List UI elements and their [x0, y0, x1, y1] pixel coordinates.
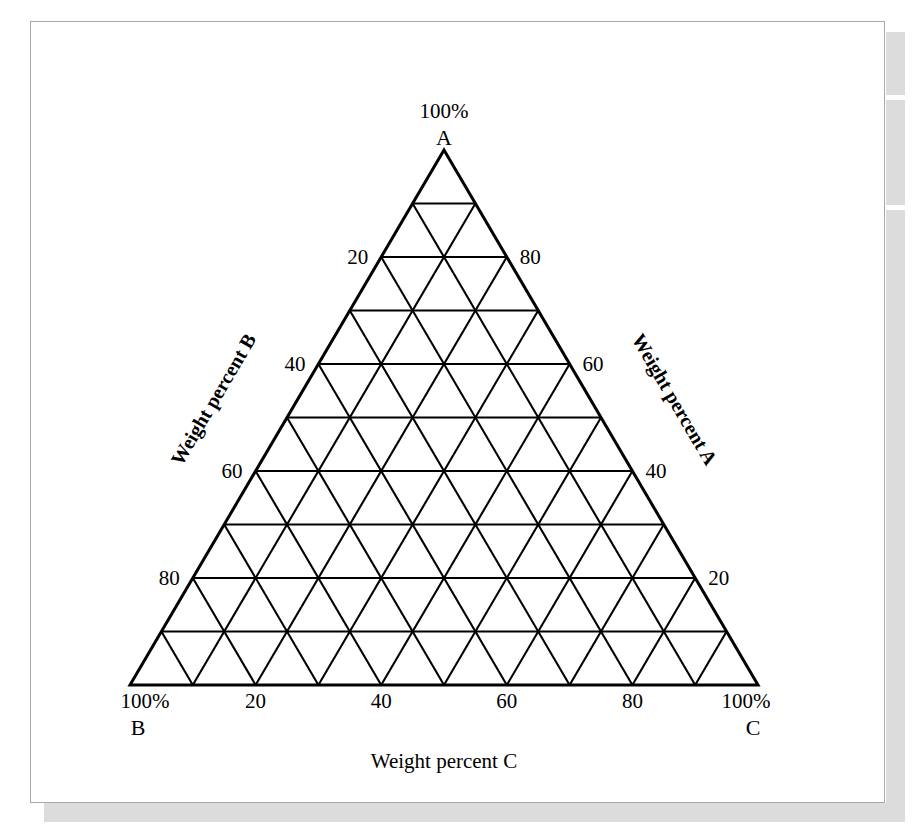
grid-line — [161, 632, 192, 686]
bottom-right-component-label: C — [746, 715, 761, 740]
axis-tick-label: 80 — [622, 689, 643, 713]
grid-line — [193, 204, 476, 686]
grid-line — [413, 204, 696, 686]
axis-tick-label: 20 — [347, 245, 368, 269]
right-axis-title: Weight percent A — [627, 330, 722, 470]
grid-line — [570, 525, 664, 686]
grid-line — [350, 311, 570, 686]
axis-tick-label: 80 — [159, 566, 180, 590]
axis-tick-label: 20 — [245, 689, 266, 713]
grid-line — [224, 525, 318, 686]
axis-tick-label: 60 — [583, 352, 604, 376]
axis-tick-label: 60 — [222, 459, 243, 483]
axis-tick-label: 80 — [520, 245, 541, 269]
grid-lines-parallel-to-base — [161, 204, 726, 632]
bottom-left-component-label: B — [131, 715, 146, 740]
apex-component-label: A — [436, 125, 452, 150]
grid-line — [318, 311, 538, 686]
axis-tick-label: 40 — [645, 459, 666, 483]
grid-line — [695, 632, 726, 686]
axis-tick-label: 60 — [496, 689, 517, 713]
axis-tick-label: 20 — [708, 566, 729, 590]
bottom-axis-title: Weight percent C — [371, 749, 517, 773]
grid-line — [444, 418, 601, 686]
left-axis-title: Weight percent B — [166, 330, 261, 470]
ternary-diagram-figure: 100% A 100% B 100% C 20406080 20406080 2… — [0, 0, 914, 837]
axis-tick-label: 40 — [371, 689, 392, 713]
bottom-right-percent-label: 100% — [722, 689, 771, 713]
grid-line — [287, 418, 444, 686]
axis-tick-label: 40 — [284, 352, 305, 376]
page-root: 100% A 100% B 100% C 20406080 20406080 2… — [0, 0, 914, 837]
apex-percent-label: 100% — [420, 99, 469, 123]
bottom-left-percent-label: 100% — [121, 689, 170, 713]
bottom-axis-tick-labels: 20406080 — [245, 689, 643, 713]
